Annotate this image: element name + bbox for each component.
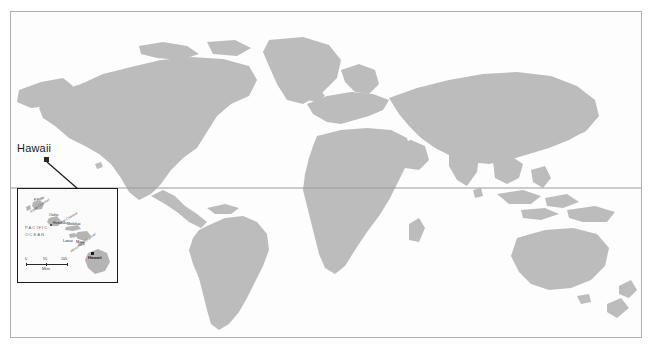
inset-label-hawaii: Hawaii [88,256,102,260]
inset-label-lanai: Lanai [63,239,73,243]
scale-tick-0: 0 [25,257,27,261]
scale-tick-50: 50 [43,257,47,261]
world-map-frame [10,11,642,338]
inset-ocean-label-line2: OCEAN [25,232,48,239]
map-screenshot: Hawaii Kauai Oahu Molokai Lanai Maui K [0,0,650,355]
honolulu-city-dot [50,224,52,226]
hawaii-inset-map: Kauai Oahu Molokai Lanai Maui Kauai Chan… [17,188,118,283]
world-map-svg [11,12,641,337]
hawaii-callout-label: Hawaii [17,142,51,154]
inset-ocean-label: PACIFIC OCEAN [25,225,48,238]
inset-label-honolulu: Honolulu [53,222,67,226]
hawaii-callout-marker [44,157,49,162]
scale-units-label: Miles [25,267,67,271]
scale-tick-100: 100 [61,257,67,261]
inset-label-oahu: Oahu [49,213,59,217]
scale-tick-labels: 0 50 100 [25,257,75,262]
inset-scale-bar: 0 50 100 Miles [25,257,75,271]
scale-bar-graphic [25,263,75,266]
inset-label-molokai: Molokai [67,222,80,226]
